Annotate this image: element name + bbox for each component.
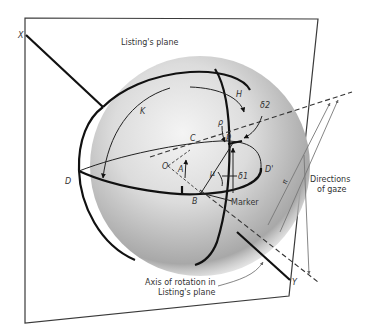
marker-label: Marker (231, 198, 259, 207)
label-o: O (162, 162, 168, 171)
label-b: B (192, 197, 198, 206)
label-x: X (17, 31, 24, 40)
label-p: P (226, 134, 231, 143)
eyeball-sphere (90, 56, 310, 276)
label-d: D (65, 177, 71, 186)
axis-annotation-line2: Listing's plane (158, 288, 216, 297)
directions-of-gaze-line1: Directions (310, 175, 350, 184)
listings-plane-title: Listing's plane (121, 38, 179, 47)
label-h: H (236, 90, 242, 99)
label-y: Y (292, 278, 298, 287)
label-mu: μ (209, 169, 215, 178)
listings-plane-diagram: Listing's plane X Y H K C P ρ δ2 O A μ δ… (0, 0, 369, 336)
label-k: K (140, 107, 146, 116)
axis-annotation-line1: Axis of rotation in (145, 278, 216, 287)
label-c: C (190, 134, 196, 143)
label-a: A (177, 165, 183, 174)
label-d-prime: D' (265, 165, 273, 174)
label-rho: ρ (218, 118, 223, 127)
axis-x-line (26, 35, 103, 107)
directions-of-gaze-line2: of gaze (317, 185, 346, 194)
label-delta2: δ2 (260, 101, 270, 110)
label-delta1: δ1 (238, 172, 248, 181)
